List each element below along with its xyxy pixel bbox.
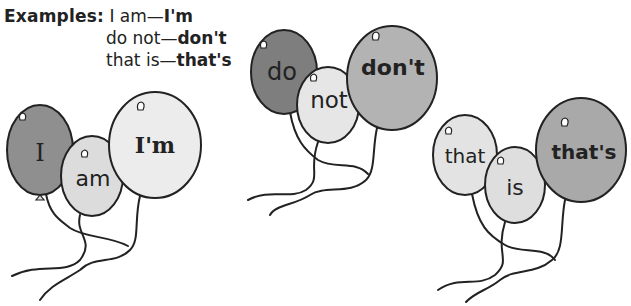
balloon-im: I'm: [109, 92, 201, 198]
balloon-group-i-am: I am I'm: [7, 92, 201, 216]
balloon-group-do-not: do not don't: [251, 26, 437, 143]
highlight-icon: [561, 118, 568, 126]
balloon-dont: don't: [347, 26, 437, 130]
balloon-label: I'm: [135, 132, 175, 158]
highlight-icon: [137, 102, 144, 110]
balloons-illustration: I am I'm do not don't: [0, 0, 631, 306]
balloon-group-that-is: that is that's: [433, 98, 626, 223]
balloon-label: is: [506, 175, 524, 200]
balloon-label: don't: [361, 55, 425, 80]
highlight-icon: [310, 74, 316, 81]
balloon-label: not: [310, 87, 348, 113]
highlight-icon: [81, 150, 87, 157]
balloon-label: do: [267, 58, 297, 86]
balloon-thats: that's: [536, 98, 626, 202]
balloon-label: that: [445, 144, 486, 168]
balloon-label: I: [35, 139, 44, 167]
highlight-icon: [497, 157, 503, 164]
highlight-icon: [372, 32, 379, 40]
highlight-icon: [260, 41, 266, 48]
balloon-label: that's: [552, 140, 617, 164]
highlight-icon: [445, 127, 451, 134]
balloon-label: am: [76, 166, 111, 191]
highlight-icon: [19, 113, 25, 120]
